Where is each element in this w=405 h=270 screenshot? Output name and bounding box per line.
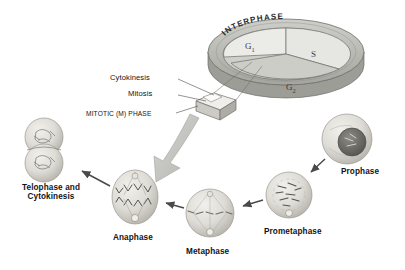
sector-label-g2: G2 [286, 83, 296, 95]
cell-cycle-diagram: INTERPHASE G1 S G2 Cytokinesis Mitosis M… [0, 0, 405, 270]
leader-label-mitosis: Mitosis [128, 90, 152, 98]
stage-label-anaphase: Anaphase [113, 234, 153, 243]
interphase-ring-label: INTERPHASE [220, 12, 284, 37]
stage-label-telophase-line2: Cytokinesis [13, 193, 89, 202]
stage-label-metaphase: Metaphase [186, 248, 229, 257]
sector-label-s: S [311, 50, 316, 60]
leader-label-cytokinesis: Cytokinesis [110, 74, 150, 82]
stage-label-telophase: Telophase and Cytokinesis [13, 184, 89, 202]
svg-text:INTERPHASE: INTERPHASE [220, 12, 284, 37]
leader-label-mitotic-phase: MITOTIC (M) PHASE [86, 110, 151, 117]
stage-label-prometaphase: Prometaphase [264, 228, 322, 237]
interphase-ring-label-svg: INTERPHASE [0, 0, 405, 270]
sector-label-g1: G1 [245, 42, 255, 54]
stage-label-prophase: Prophase [341, 168, 379, 177]
